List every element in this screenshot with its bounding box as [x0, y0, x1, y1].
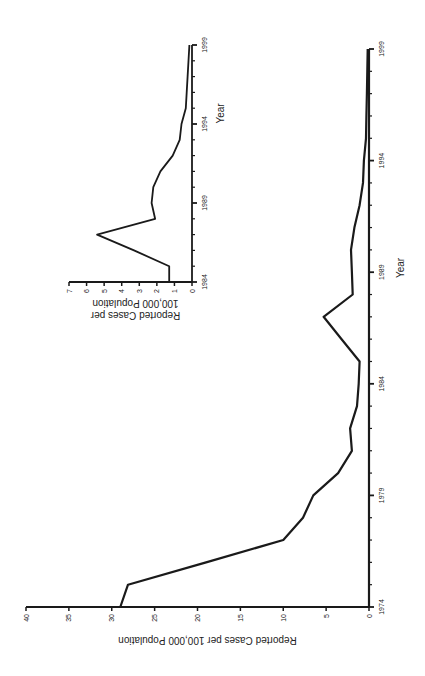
- x-tick-label: 1999: [378, 41, 385, 57]
- x-tick-label: 1999: [201, 37, 208, 53]
- y-tick-label: 1: [171, 289, 178, 293]
- y-tick-label: 0: [366, 614, 373, 618]
- main-data-line: [120, 49, 367, 607]
- y-tick-label: 5: [323, 614, 330, 618]
- x-tick-label: 1984: [378, 376, 385, 392]
- inset-chart: 012345671984198919941999 Year Reported C…: [66, 37, 227, 321]
- inset-x-axis-title: Year: [215, 103, 226, 124]
- main-y-axis-title: Reported Cases per 100,000 Population: [118, 635, 296, 646]
- y-tick-label: 35: [65, 614, 72, 622]
- inset-y-axis-title-line1: Reported Cases per: [90, 310, 180, 321]
- inset-y-axis-title-line2: 100,000 Population: [92, 298, 178, 309]
- y-tick-label: 20: [194, 614, 201, 622]
- x-tick-label: 1989: [378, 264, 385, 280]
- x-tick-label: 1994: [201, 116, 208, 132]
- y-tick-label: 2: [153, 289, 160, 293]
- rotated-chart-figure: 0510152025303540197419791984198919941999…: [0, 0, 425, 676]
- y-tick-label: 15: [237, 614, 244, 622]
- y-tick-label: 30: [108, 614, 115, 622]
- inset-data-line: [97, 45, 189, 282]
- x-tick-label: 1979: [378, 488, 385, 504]
- y-tick-label: 4: [118, 289, 125, 293]
- y-tick-label: 0: [189, 289, 196, 293]
- chart-svg: 0510152025303540197419791984198919941999…: [0, 0, 425, 676]
- y-tick-label: 25: [151, 614, 158, 622]
- y-tick-label: 10: [280, 614, 287, 622]
- y-tick-label: 5: [101, 289, 108, 293]
- y-tick-label: 6: [83, 289, 90, 293]
- main-x-axis-title: Year: [395, 257, 406, 278]
- x-tick-label: 1989: [201, 195, 208, 211]
- x-tick-label: 1984: [201, 274, 208, 290]
- main-chart: 0510152025303540197419791984198919941999…: [23, 41, 407, 646]
- x-tick-label: 1974: [378, 599, 385, 615]
- inset-axes: 012345671984198919941999: [66, 37, 209, 293]
- x-tick-label: 1994: [378, 153, 385, 169]
- y-tick-label: 7: [66, 289, 73, 293]
- y-tick-label: 3: [136, 289, 143, 293]
- y-tick-label: 40: [23, 614, 30, 622]
